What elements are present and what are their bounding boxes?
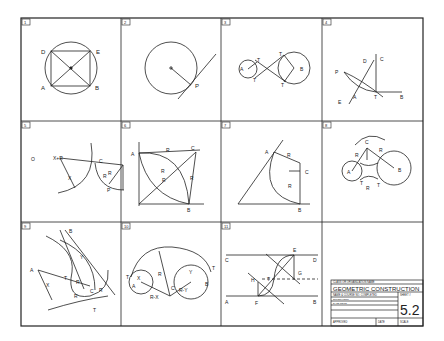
svg-text:9: 9	[24, 224, 27, 229]
svg-text:A: A	[347, 169, 351, 175]
svg-text:APPROVED: APPROVED	[333, 320, 348, 324]
svg-text:A: A	[41, 85, 45, 91]
panel-2-tangent-circle	[145, 42, 216, 99]
svg-text:A: A	[240, 66, 244, 72]
panel-7-tangent-angle	[238, 140, 310, 204]
svg-text:T: T	[212, 265, 215, 271]
svg-text:T: T	[281, 82, 284, 88]
svg-text:DATE: DATE	[378, 320, 385, 324]
svg-text:A: A	[265, 149, 269, 155]
svg-text:10: 10	[124, 224, 129, 229]
svg-text:B: B	[400, 94, 404, 100]
panel-number-boxes	[22, 19, 331, 229]
svg-text:T: T	[377, 182, 380, 188]
svg-text:X: X	[137, 275, 141, 281]
svg-text:A: A	[132, 283, 136, 289]
svg-text:2: 2	[124, 20, 127, 25]
svg-text:E: E	[338, 99, 342, 105]
svg-text:DATE REC'D: DATE REC'D	[333, 302, 347, 305]
panel-1-inscribed-square	[45, 42, 97, 94]
svg-text:NAME & COURSE NO. COMPLETED: NAME & COURSE NO. COMPLETED	[333, 293, 377, 297]
drawing-sheet: 1 2 3 4 5 6 7 8 9 10 11 DE AB P	[0, 0, 444, 341]
svg-text:R: R	[74, 293, 78, 299]
svg-text:O: O	[31, 156, 35, 162]
svg-text:A: A	[30, 267, 34, 273]
svg-text:Y: Y	[80, 254, 84, 260]
svg-text:5: 5	[24, 123, 27, 128]
svg-text:B: B	[300, 66, 304, 72]
svg-text:T: T	[279, 51, 282, 57]
svg-text:R: R	[162, 177, 166, 183]
svg-text:B: B	[69, 228, 73, 234]
svg-text:P: P	[195, 83, 199, 89]
svg-text:T: T	[267, 276, 270, 282]
svg-text:D: D	[313, 257, 317, 263]
svg-text:T: T	[360, 180, 363, 186]
svg-text:Y: Y	[189, 269, 193, 275]
svg-text:R: R	[288, 183, 292, 189]
svg-text:4: 4	[325, 20, 328, 25]
panel-11-ogee-curve	[226, 254, 318, 304]
svg-text:6: 6	[124, 123, 127, 128]
svg-text:B: B	[313, 299, 317, 305]
panel-5-arc-construction	[58, 143, 124, 193]
svg-text:G: G	[298, 270, 302, 276]
svg-text:E: E	[293, 247, 297, 253]
svg-text:A: A	[225, 299, 229, 305]
sheet-number: 5.2	[400, 302, 420, 318]
svg-text:R: R	[158, 271, 162, 277]
sheet-title: GEOMETRIC CONSTRUCTION	[333, 286, 419, 292]
svg-text:SHEET #: SHEET #	[400, 293, 411, 297]
svg-text:X: X	[46, 282, 50, 288]
svg-text:A: A	[353, 94, 357, 100]
org-name: CLASS OR ORGANIZATION NAME	[333, 280, 375, 284]
svg-text:7: 7	[224, 123, 227, 128]
svg-text:A: A	[131, 151, 135, 157]
svg-text:D: D	[363, 58, 367, 64]
svg-text:R: R	[379, 147, 383, 153]
svg-text:R: R	[287, 152, 291, 158]
svg-text:R: R	[166, 147, 170, 153]
svg-text:B: B	[398, 167, 402, 173]
svg-text:T: T	[253, 77, 256, 83]
svg-text:T: T	[126, 274, 129, 280]
svg-text:R: R	[355, 152, 359, 158]
svg-text:F: F	[255, 300, 258, 306]
svg-text:B: B	[187, 207, 191, 213]
svg-text:T: T	[64, 275, 67, 281]
svg-text:8: 8	[325, 123, 328, 128]
svg-text:B: B	[298, 207, 302, 213]
svg-text:C: C	[365, 139, 369, 145]
svg-text:R: R	[103, 173, 107, 179]
svg-text:R: R	[190, 175, 194, 181]
svg-text:3: 3	[224, 20, 227, 25]
svg-text:SCALE: SCALE	[400, 320, 409, 324]
svg-text:R: R	[76, 279, 80, 285]
svg-text:SUPERVISOR: SUPERVISOR	[333, 298, 349, 301]
svg-text:C: C	[171, 285, 175, 291]
svg-text:X+R: X+R	[53, 155, 63, 161]
svg-text:T: T	[257, 57, 260, 63]
svg-text:C: C	[225, 257, 229, 263]
svg-text:R: R	[161, 168, 165, 174]
svg-text:D: D	[41, 49, 46, 55]
svg-text:C: C	[99, 158, 103, 164]
svg-text:R: R	[366, 185, 370, 191]
svg-text:P: P	[335, 69, 339, 75]
svg-text:B: B	[95, 85, 99, 91]
svg-text:C: C	[305, 169, 309, 175]
svg-text:11: 11	[224, 224, 229, 229]
svg-text:R: R	[99, 287, 103, 293]
svg-text:R: R	[108, 170, 112, 176]
svg-text:R-Y: R-Y	[179, 287, 188, 293]
svg-text:1: 1	[24, 20, 27, 25]
svg-text:R-X: R-X	[150, 294, 159, 300]
svg-text:C: C	[90, 288, 94, 294]
svg-text:T: T	[374, 94, 377, 100]
svg-text:B: B	[205, 281, 209, 287]
svg-text:C: C	[380, 56, 384, 62]
panel-6-quarter-arc	[139, 142, 204, 206]
panel-10-arc-enclosing-circles	[129, 247, 211, 299]
svg-text:T: T	[93, 307, 96, 313]
panel-8-tangent-circles	[342, 136, 411, 185]
